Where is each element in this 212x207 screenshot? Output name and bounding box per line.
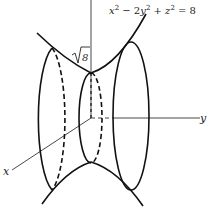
equation: x2 − 2y2 + z2 = 8: [109, 4, 196, 16]
radius-label: 8: [72, 47, 90, 63]
bottom-hyperbola: [42, 162, 143, 206]
eq-plus: +: [150, 5, 165, 16]
left-ellipse-front: [38, 48, 52, 190]
hyperboloid-diagram: 8 y x x2 − 2y2 + z2 = 8: [0, 0, 212, 207]
y-axis-label: y: [199, 112, 207, 125]
top-hyperbola: [37, 14, 146, 73]
right-ellipse: [113, 42, 149, 190]
eq-rhs: = 8: [175, 5, 196, 16]
left-ellipse-back: [52, 48, 65, 190]
eq-minus: − 2: [119, 5, 140, 16]
x-axis-label: x: [3, 165, 10, 178]
throat-ellipse-front: [79, 73, 91, 163]
radius-value: 8: [82, 52, 88, 63]
